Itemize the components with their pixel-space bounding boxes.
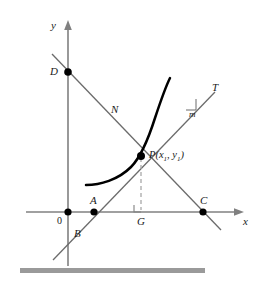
- point-dot-origin: [64, 208, 71, 215]
- point-dot-C: [199, 208, 206, 215]
- point-dot-A: [90, 208, 97, 215]
- right-angle-marker: [134, 205, 141, 212]
- y-axis-label: y: [51, 20, 56, 31]
- point-label-G: G: [137, 216, 145, 227]
- geometry-figure: y x 0 D A C G B N T m P(x1, y1): [0, 0, 268, 282]
- axes-group: [26, 20, 244, 266]
- x-axis-label: x: [243, 216, 248, 227]
- origin-label: 0: [57, 216, 62, 226]
- point-dot-D: [64, 68, 72, 76]
- point-label-C: C: [200, 195, 207, 206]
- point-dot-P: [137, 152, 145, 160]
- slope-label-m: m: [189, 110, 196, 119]
- point-label-B: B: [74, 228, 81, 239]
- function-curve: [86, 78, 170, 185]
- y-axis-arrowhead: [64, 20, 72, 30]
- normal-line: [52, 54, 221, 230]
- point-label-A: A: [90, 195, 97, 206]
- point-p-close-paren: ): [181, 149, 185, 160]
- bottom-gray-bar: [20, 268, 205, 273]
- point-label-D: D: [50, 66, 58, 77]
- tangent-line-label: T: [212, 82, 218, 93]
- normal-line-label: N: [111, 104, 118, 115]
- point-label-P: P(x1, y1): [149, 150, 184, 163]
- figure-canvas: [0, 0, 268, 282]
